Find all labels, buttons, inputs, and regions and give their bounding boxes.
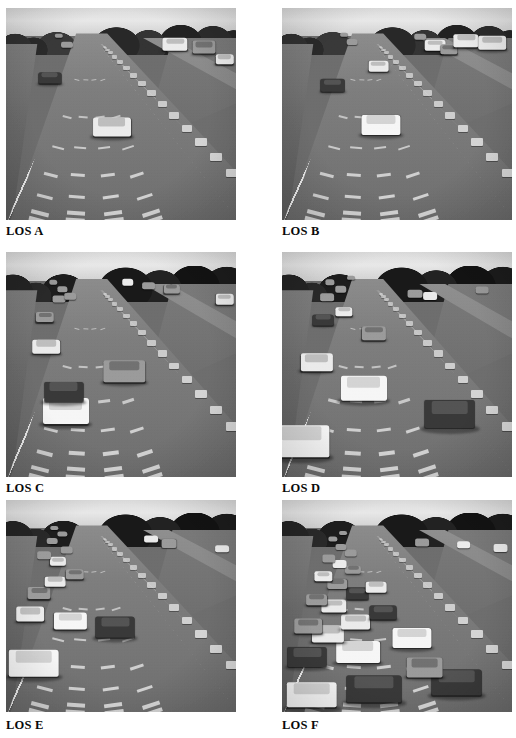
barrier-segment <box>393 307 399 311</box>
vehicle-body <box>45 576 66 587</box>
barrier-segment <box>138 81 146 86</box>
vehicle-body <box>346 675 401 703</box>
vehicle-roof <box>432 401 468 413</box>
vehicle <box>162 539 177 547</box>
barrier-segment <box>112 547 118 551</box>
vehicle <box>415 539 429 546</box>
vehicle-body <box>392 628 431 648</box>
photo-los-a <box>6 8 236 220</box>
vehicle-roof <box>324 80 341 85</box>
vehicle <box>328 537 337 542</box>
vehicle-roof <box>282 427 321 441</box>
lane-dash <box>83 328 88 330</box>
vehicle-body <box>322 555 335 562</box>
vehicle-roof <box>36 340 56 346</box>
vehicle-roof <box>317 572 329 576</box>
vehicle-roof <box>166 285 178 289</box>
vehicle-body <box>406 658 443 677</box>
vehicle-body <box>362 326 386 340</box>
vehicle-roof <box>294 683 330 694</box>
barrier-segment <box>108 298 113 301</box>
vehicle <box>339 531 347 535</box>
vehicle-roof <box>316 314 331 319</box>
vehicle <box>361 115 400 135</box>
vehicle <box>414 33 426 39</box>
barrier-segment <box>169 604 179 611</box>
panel-los-c <box>6 252 236 477</box>
vehicle-body <box>52 296 65 303</box>
barrier-segment <box>210 153 222 161</box>
vehicle <box>142 282 156 290</box>
lane-dash <box>66 217 85 220</box>
vehicle-body <box>313 314 334 325</box>
barrier-segment <box>406 73 414 78</box>
vehicle-body <box>423 292 437 300</box>
lane-dash <box>342 217 361 220</box>
barrier-segment <box>486 153 498 161</box>
vehicle-body <box>215 294 233 304</box>
vehicle-body <box>476 287 489 294</box>
vehicle <box>215 545 229 553</box>
vehicle <box>55 33 63 38</box>
vehicle-body <box>8 650 59 677</box>
caption-los-a: LOS A <box>6 224 43 238</box>
panel-los-d <box>282 252 512 477</box>
vehicle <box>32 339 60 354</box>
vehicle <box>425 400 476 428</box>
vehicle <box>479 36 507 50</box>
panel-los-e <box>6 500 236 712</box>
vehicle-body <box>66 569 84 579</box>
vehicle-body <box>47 538 58 544</box>
vehicle <box>315 572 332 581</box>
barrier-segment <box>158 101 168 107</box>
vehicle-roof <box>20 608 40 615</box>
vehicle <box>493 544 508 552</box>
vehicle-body <box>55 33 63 38</box>
lane-dash <box>95 607 104 610</box>
vehicle-body <box>54 612 86 629</box>
barrier-segment <box>399 66 406 70</box>
vehicle <box>341 614 371 629</box>
vehicle-body <box>192 41 215 54</box>
barrier-segment <box>182 617 193 624</box>
vehicle-body <box>479 36 507 50</box>
lane-dash <box>342 474 361 477</box>
vehicle-body <box>65 293 77 300</box>
vehicle-roof <box>369 582 384 587</box>
vehicle <box>457 541 471 549</box>
barrier-segment <box>393 60 399 64</box>
vehicle <box>47 538 58 544</box>
barrier-segment <box>123 66 130 70</box>
vehicle <box>366 582 387 593</box>
caption-los-d: LOS D <box>282 481 320 495</box>
vehicle-roof <box>309 594 325 599</box>
vehicle <box>423 292 437 300</box>
barrier-segment <box>117 307 123 311</box>
vehicle <box>345 566 361 574</box>
vehicle-body <box>164 285 180 294</box>
vehicle-body <box>340 32 348 37</box>
vehicle-roof <box>347 377 380 388</box>
vehicle-body <box>345 566 361 574</box>
vehicle-body <box>370 606 396 620</box>
barrier-segment <box>434 350 444 356</box>
vehicle-roof <box>342 641 373 651</box>
vehicle <box>392 628 431 648</box>
vehicle-body <box>300 353 332 371</box>
vehicle-body <box>51 525 58 529</box>
caption-los-b: LOS B <box>282 224 319 238</box>
barrier-segment <box>226 169 236 177</box>
vehicle <box>66 569 84 579</box>
vehicle <box>16 607 44 622</box>
vehicle-roof <box>48 577 63 582</box>
barrier-segment <box>158 593 168 599</box>
barrier-segment <box>471 138 483 145</box>
vehicle-body <box>142 282 156 290</box>
vehicle <box>408 289 423 298</box>
photo-los-c <box>6 252 236 477</box>
barrier-segment <box>486 645 498 653</box>
vehicle <box>340 32 348 37</box>
vehicle <box>347 276 355 281</box>
barrier-segment <box>138 330 146 336</box>
vehicle <box>162 38 187 51</box>
